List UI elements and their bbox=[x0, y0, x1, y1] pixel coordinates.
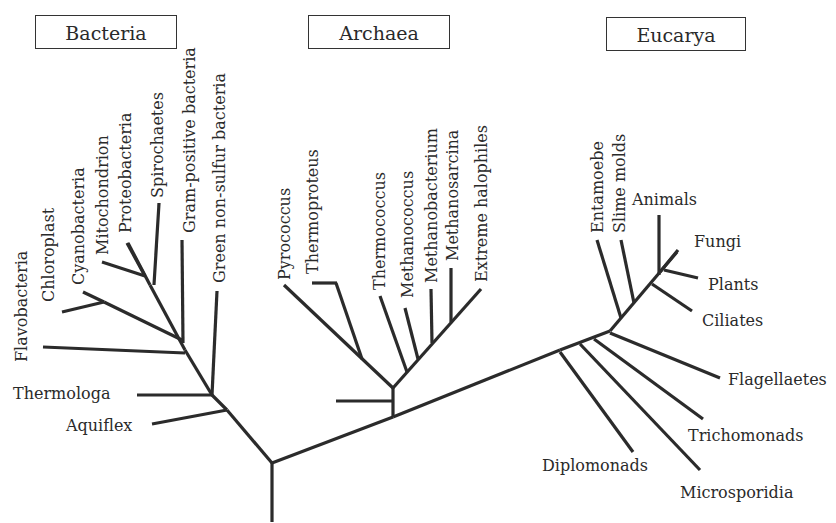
label-green-non-sulfur: Green non-sulfur bacteria bbox=[212, 73, 228, 283]
label-slime-molds: Slime molds bbox=[612, 134, 628, 233]
label-trichomonads: Trichomonads bbox=[688, 428, 803, 444]
domain-box-bacteria: Bacteria bbox=[35, 15, 177, 49]
branch-trichomonads bbox=[594, 339, 703, 419]
label-fungi: Fungi bbox=[694, 234, 741, 250]
label-diplomonads: Diplomonads bbox=[542, 458, 648, 474]
label-methanococcus: Methanococcus bbox=[400, 171, 416, 298]
domain-box-eucarya: Eucarya bbox=[606, 17, 746, 51]
branch-flagellaetes bbox=[610, 333, 720, 378]
branch-pyrococcus-group bbox=[284, 285, 393, 388]
branch-thermococcus bbox=[380, 296, 407, 372]
label-gram-positive: Gram-positive bacteria bbox=[182, 47, 198, 233]
bacteria-trunk bbox=[227, 410, 272, 463]
label-methanobacterium: Methanobacterium bbox=[424, 128, 440, 283]
branch-entamoebe bbox=[597, 240, 621, 318]
label-cyanobacteria: Cyanobacteria bbox=[71, 167, 87, 285]
branch-fungi bbox=[660, 250, 678, 272]
bacteria-trunk-2 bbox=[212, 395, 227, 410]
domain-box-archaea: Archaea bbox=[308, 15, 450, 49]
label-pyrococcus: Pyrococcus bbox=[277, 188, 293, 280]
label-thermologa: Thermologa bbox=[13, 386, 110, 402]
label-spirochaetes: Spirochaetes bbox=[150, 92, 166, 198]
label-entamoebe: Entamoebe bbox=[590, 141, 606, 233]
label-chloroplast: Chloroplast bbox=[41, 208, 57, 302]
label-ciliates: Ciliates bbox=[702, 313, 763, 329]
label-flavobacteria: Flavobacteria bbox=[14, 251, 30, 362]
label-proteobacteria: Proteobacteria bbox=[118, 112, 134, 233]
branch-methanobacterium bbox=[431, 289, 432, 343]
bacteria-trunk-3 bbox=[185, 350, 212, 395]
label-thermococcus: Thermococcus bbox=[372, 172, 388, 290]
label-mitochondrion: Mitochondrion bbox=[95, 135, 111, 255]
archaea-right-trunk bbox=[393, 289, 481, 388]
universal-trunk bbox=[272, 417, 393, 463]
branch-plants bbox=[664, 270, 698, 278]
branch-chloroplast bbox=[62, 302, 104, 312]
branch-methanococcus bbox=[405, 308, 418, 359]
branch-slime-molds bbox=[621, 240, 634, 303]
label-plants: Plants bbox=[708, 277, 758, 293]
branch-spirochaetes bbox=[154, 203, 159, 285]
branch-flavobacteria bbox=[43, 347, 185, 353]
branch-ciliates bbox=[652, 284, 692, 311]
label-thermoproteus: Thermoproteus bbox=[305, 149, 321, 274]
branch-cyanobacteria bbox=[83, 292, 104, 302]
label-methanosarcina: Methanosarcina bbox=[445, 130, 461, 261]
label-extreme-halophiles: Extreme halophiles bbox=[474, 125, 490, 282]
label-aquiflex: Aquiflex bbox=[66, 418, 132, 434]
branch-diplomonads bbox=[560, 352, 633, 452]
branch-gram-positive bbox=[182, 240, 183, 343]
branch-aquiflex bbox=[152, 410, 227, 424]
label-animals: Animals bbox=[632, 192, 697, 208]
branch-green-non-sulfur bbox=[212, 291, 217, 395]
label-flagellaetes: Flagellaetes bbox=[728, 372, 827, 388]
label-microsporidia: Microsporidia bbox=[680, 485, 794, 501]
